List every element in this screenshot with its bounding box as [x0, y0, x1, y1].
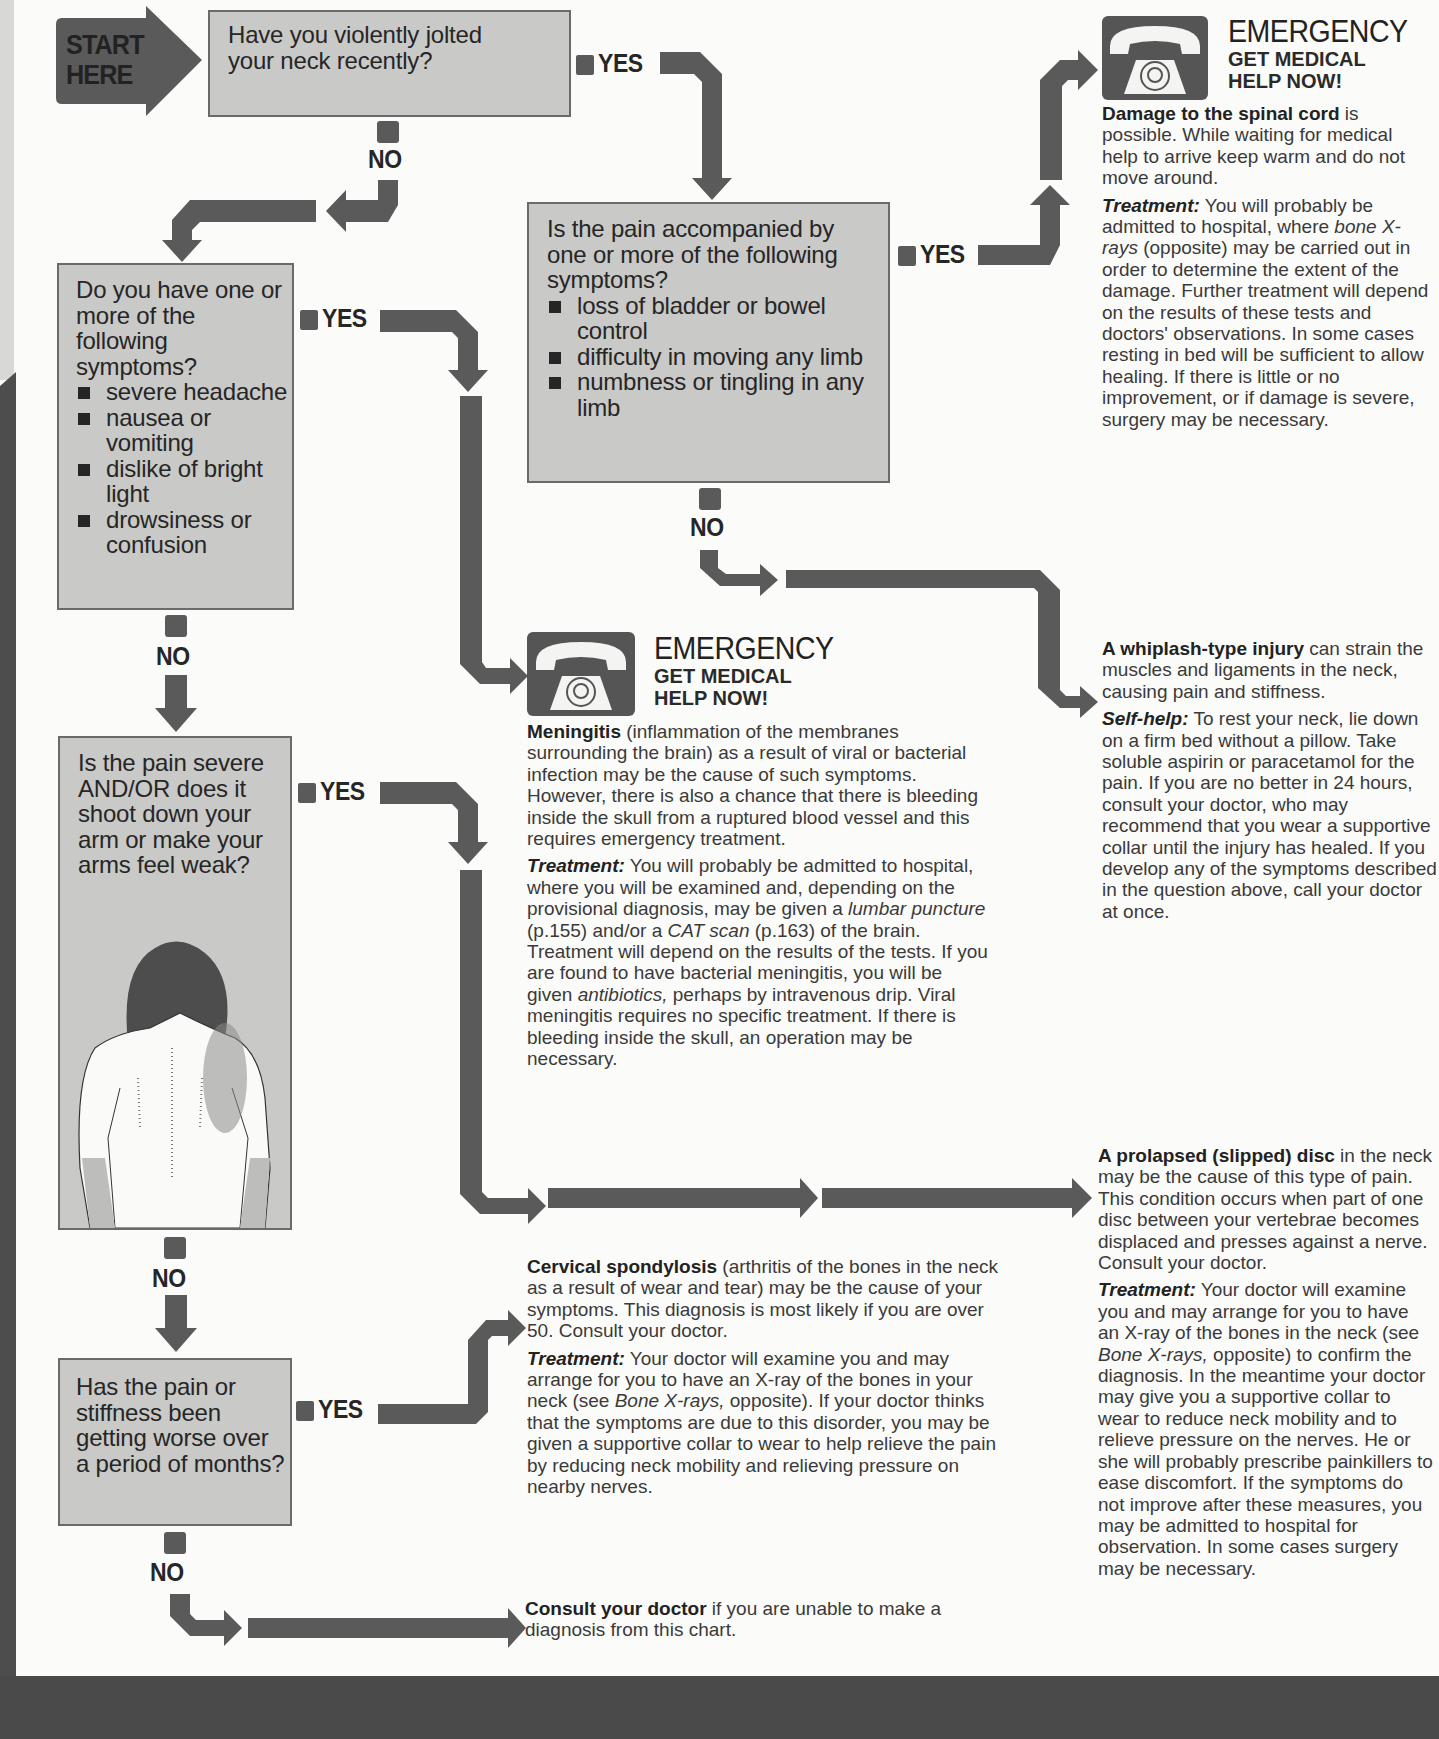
outcome-title: Meningitis — [527, 721, 621, 742]
back-pain-illustration — [60, 928, 290, 1228]
treatment-reference: Bone X-rays, — [1098, 1344, 1208, 1365]
outcome-whiplash: A whiplash-type injury can strain the mu… — [1102, 638, 1437, 928]
outcome-prolapsed-disc: A prolapsed (slipped) disc in the neck m… — [1098, 1145, 1433, 1585]
start-line-1: START — [66, 30, 144, 60]
question-lead: Is the pain accompanied by one or more o… — [547, 216, 877, 293]
yes-marker — [300, 310, 318, 330]
symptom-list: severe headache nausea or vomiting disli… — [76, 379, 291, 558]
treatment-text: (p.155) and/or a — [527, 920, 667, 941]
emergency-subtitle: HELP NOW! — [654, 687, 849, 709]
yes-marker — [898, 246, 916, 266]
question-jolted-neck: Have you violently jolted your neck rece… — [208, 10, 571, 117]
self-help-label: Self-help: — [1102, 708, 1189, 729]
yes-label: YES — [920, 240, 965, 269]
question-text: Is the pain severe AND/OR does it shoot … — [78, 750, 283, 878]
emergency-phone-icon — [1102, 16, 1208, 100]
yes-label: YES — [598, 49, 643, 78]
question-accompanied-symptoms: Is the pain accompanied by one or more o… — [527, 202, 890, 483]
no-label: NO — [690, 513, 724, 542]
outcome-consult-doctor: Consult your doctor if you are unable to… — [525, 1598, 1005, 1647]
treatment-reference: antibiotics, — [578, 984, 668, 1005]
no-label: NO — [152, 1264, 186, 1293]
outcome-spinal-cord: Damage to the spinal cord is possible. W… — [1102, 103, 1432, 436]
outcome-title: Damage to the spinal cord — [1102, 103, 1340, 124]
question-meningitis-symptoms: Do you have one or more of the following… — [57, 263, 294, 610]
start-line-2: HERE — [66, 60, 144, 90]
symptom-list: loss of bladder or bowel control difficu… — [547, 293, 877, 421]
question-lead: Do you have one or more of the following… — [76, 277, 291, 379]
symptom-item: loss of bladder or bowel control — [547, 293, 877, 344]
yes-marker — [298, 783, 316, 803]
question-text: Do you have one or more of the following… — [76, 277, 291, 558]
no-label: NO — [368, 145, 402, 174]
no-label: NO — [150, 1558, 184, 1587]
question-worsening-months: Has the pain or stiffness been getting w… — [58, 1358, 292, 1526]
emergency-subtitle: GET MEDICAL — [654, 665, 849, 687]
outcome-title: A prolapsed (slipped) disc — [1098, 1145, 1335, 1166]
outcome-title: Cervical spondylosis — [527, 1256, 717, 1277]
start-here-label: START HERE — [66, 30, 144, 90]
symptom-item: numbness or tingling in any limb — [547, 369, 877, 420]
question-text: Is the pain accompanied by one or more o… — [547, 216, 877, 420]
symptom-item: dislike of bright light — [76, 456, 291, 507]
treatment-reference: CAT scan — [667, 920, 749, 941]
outcome-meningitis: Meningitis (inflammation of the membrane… — [527, 721, 989, 1076]
question-text: Have you violently jolted your neck rece… — [228, 22, 508, 73]
treatment-reference: Bone X-rays, — [615, 1390, 725, 1411]
no-label: NO — [156, 642, 190, 671]
yes-marker — [576, 55, 594, 75]
emergency-subtitle: HELP NOW! — [1228, 70, 1423, 92]
yes-label: YES — [318, 1395, 363, 1424]
emergency-heading: EMERGENCY GET MEDICAL HELP NOW! — [1228, 16, 1423, 92]
treatment-text: (opposite) may be carried out in order t… — [1102, 237, 1428, 429]
yes-label: YES — [320, 777, 365, 806]
symptom-item: difficulty in moving any limb — [547, 344, 877, 370]
emergency-title: EMERGENCY — [1228, 16, 1408, 48]
emergency-phone-icon — [527, 632, 635, 716]
emergency-heading: EMERGENCY GET MEDICAL HELP NOW! — [654, 633, 849, 709]
symptom-item: nausea or vomiting — [76, 405, 291, 456]
treatment-text: opposite) to confirm the diagnosis. In t… — [1098, 1344, 1433, 1579]
yes-marker — [296, 1401, 314, 1421]
question-text: Has the pain or stiffness been getting w… — [76, 1374, 288, 1476]
symptom-item: drowsiness or confusion — [76, 507, 291, 558]
outcome-title: Consult your doctor — [525, 1598, 707, 1619]
symptom-item: severe headache — [76, 379, 291, 405]
emergency-subtitle: GET MEDICAL — [1228, 48, 1423, 70]
treatment-label: Treatment: — [527, 1348, 625, 1369]
outcome-title: A whiplash-type injury — [1102, 638, 1304, 659]
emergency-title: EMERGENCY — [654, 633, 834, 665]
treatment-label: Treatment: — [1098, 1279, 1196, 1300]
self-help-text: To rest your neck, lie down on a firm be… — [1102, 708, 1437, 922]
outcome-cervical-spondylosis: Cervical spondylosis (arthritis of the b… — [527, 1256, 1005, 1503]
yes-label: YES — [322, 304, 367, 333]
treatment-reference: lumbar puncture — [848, 898, 985, 919]
treatment-label: Treatment: — [527, 855, 625, 876]
treatment-label: Treatment: — [1102, 195, 1200, 216]
question-arm-pain: Is the pain severe AND/OR does it shoot … — [58, 736, 292, 1230]
